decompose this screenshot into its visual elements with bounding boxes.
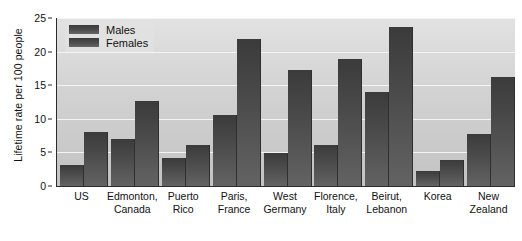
y-axis-tick-mark [48,186,52,187]
y-axis-tick-label: 20 [34,46,46,58]
bar-males [162,158,186,186]
x-axis-label-line2: Lebanon [355,203,418,216]
bar-group [467,18,514,186]
bar-females [338,59,362,186]
x-axis-label: NewZealand [457,190,520,215]
bar-group [416,18,463,186]
bar-females [237,39,261,186]
x-axis-label-line1: Beirut, [372,190,402,202]
bar-males [213,115,237,186]
bar-females [440,160,464,186]
y-axis-tick-label: 5 [40,146,46,158]
legend-item-males: Males [69,23,148,36]
bar-males [467,134,491,186]
x-axis-label-line1: US [74,190,89,202]
x-axis-label-line1: West [273,190,297,202]
bar-females [288,70,312,186]
bar-females [491,77,515,186]
bar-females [389,27,413,186]
x-axis-label-line2: Zealand [457,203,520,216]
x-axis-label-line1: Puerto [168,190,199,202]
legend-swatch-females [69,38,99,47]
y-axis-ticks: 0510152025 [26,0,52,241]
bar-males [111,139,135,186]
bar-group [365,18,412,186]
legend-swatch-males [69,25,99,34]
x-axis-labels: USEdmonton,CanadaPuertoRicoParis,FranceW… [56,190,514,238]
bar-males [416,171,440,186]
chart-figure: Lifetime rate per 100 people 0510152025 … [0,0,522,241]
legend-item-females: Females [69,36,148,49]
y-axis-title-text: Lifetime rate per 100 people [12,28,24,162]
y-axis-tick-mark [48,51,52,52]
legend-label-females: Females [106,37,148,49]
y-axis-tick-mark [48,18,52,19]
x-axis-label-line1: New [478,190,499,202]
y-axis-tick-mark [48,85,52,86]
bar-group [264,18,311,186]
bar-males [264,153,288,186]
y-axis-tick-label: 10 [34,113,46,125]
bar-females [84,132,108,186]
bar-group [162,18,209,186]
bar-females [135,101,159,186]
x-axis-label-line1: Edmonton, [107,190,158,202]
bar-males [60,165,84,186]
legend: Males Females [65,21,154,52]
y-axis-tick-label: 25 [34,12,46,24]
y-axis-tick-mark [48,152,52,153]
bar-group [314,18,361,186]
y-axis-tick-label: 0 [40,180,46,192]
bar-females [186,145,210,186]
x-axis-label-line1: Paris, [221,190,248,202]
bar-group [213,18,260,186]
legend-label-males: Males [106,24,135,36]
x-axis-label-line1: Florence, [314,190,358,202]
bar-males [365,92,389,186]
plot-area: Males Females [56,18,515,187]
bar-males [314,145,338,186]
x-axis-label-line1: Korea [424,190,452,202]
y-axis-tick-mark [48,118,52,119]
y-axis-tick-label: 15 [34,79,46,91]
